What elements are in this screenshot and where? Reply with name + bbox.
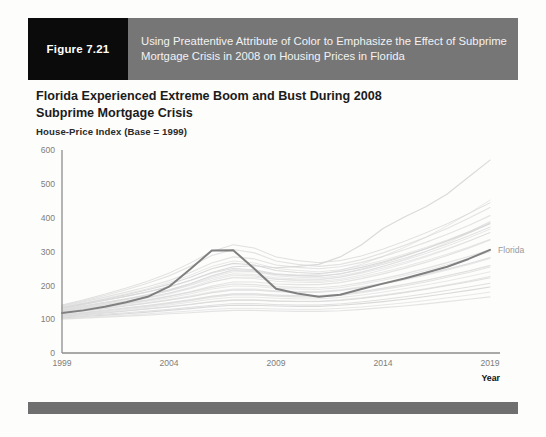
context-line bbox=[62, 277, 490, 317]
context-line bbox=[62, 216, 490, 307]
context-line bbox=[62, 200, 490, 310]
context-line bbox=[62, 223, 490, 312]
highlight-line-florida bbox=[62, 250, 490, 313]
context-line bbox=[62, 265, 490, 314]
y-tick-label: 600 bbox=[41, 145, 56, 155]
context-line bbox=[62, 278, 490, 317]
chart-title: Florida Experienced Extreme Boom and Bus… bbox=[36, 88, 436, 121]
context-line bbox=[62, 266, 490, 315]
context-line bbox=[62, 233, 490, 311]
context-series-group bbox=[62, 160, 490, 319]
series-annotation-florida: Florida bbox=[498, 245, 524, 255]
context-line bbox=[62, 259, 490, 314]
x-tick-label: 1999 bbox=[52, 358, 71, 368]
figure-page: Figure 7.21 Using Preattentive Attribute… bbox=[0, 0, 546, 437]
x-tick-label: 2019 bbox=[480, 358, 499, 368]
context-line bbox=[62, 252, 490, 313]
context-line bbox=[62, 267, 490, 315]
context-line bbox=[62, 240, 490, 312]
y-tick-label: 500 bbox=[41, 179, 56, 189]
x-tick-label: 2014 bbox=[373, 358, 392, 368]
context-line bbox=[62, 224, 490, 308]
x-tick-label: 2004 bbox=[159, 358, 178, 368]
context-line bbox=[62, 250, 490, 312]
figure-number-label: Figure 7.21 bbox=[47, 43, 110, 55]
y-tick-label: 400 bbox=[41, 213, 56, 223]
context-line bbox=[62, 297, 490, 319]
context-line bbox=[62, 222, 490, 309]
context-line bbox=[62, 229, 490, 310]
context-line bbox=[62, 258, 490, 314]
figure-caption-box: Using Preattentive Attribute of Color to… bbox=[128, 18, 518, 80]
y-tick-label: 0 bbox=[50, 348, 55, 358]
context-line bbox=[62, 203, 490, 305]
context-line bbox=[62, 223, 490, 307]
footer-bar bbox=[28, 402, 518, 414]
tick-labels-group: 010020030040050060019992004200920142019Y… bbox=[41, 145, 501, 383]
context-line bbox=[62, 160, 490, 308]
x-tick-label: 2009 bbox=[266, 358, 285, 368]
figure-caption-text: Using Preattentive Attribute of Color to… bbox=[141, 34, 508, 65]
context-line bbox=[62, 227, 490, 308]
annotations-group: Florida bbox=[498, 245, 524, 255]
context-line bbox=[62, 292, 490, 318]
y-tick-label: 200 bbox=[41, 281, 56, 291]
context-line bbox=[62, 287, 490, 318]
axes-group bbox=[62, 150, 500, 353]
x-axis-title: Year bbox=[481, 373, 500, 383]
context-line bbox=[62, 208, 490, 306]
figure-header-band: Figure 7.21 Using Preattentive Attribute… bbox=[28, 18, 518, 80]
context-line bbox=[62, 258, 490, 313]
context-line bbox=[62, 283, 490, 317]
context-line bbox=[62, 272, 490, 316]
y-tick-label: 100 bbox=[41, 314, 56, 324]
chart-subtitle: House-Price Index (Base = 1999) bbox=[36, 126, 187, 137]
y-tick-label: 300 bbox=[41, 247, 56, 257]
context-line bbox=[62, 239, 490, 310]
context-line bbox=[62, 233, 490, 310]
figure-number-box: Figure 7.21 bbox=[28, 18, 128, 80]
highlight-series-group bbox=[62, 250, 490, 313]
